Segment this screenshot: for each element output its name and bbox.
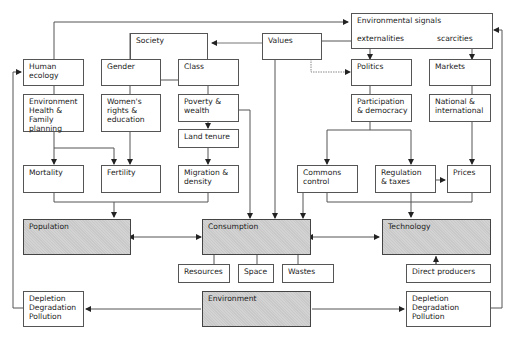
poverty-wealth-box: Poverty & wealth: [178, 94, 239, 122]
national-international-box: National & international: [429, 94, 491, 122]
gender-label: Gender: [107, 62, 160, 71]
depletion-right-label: Depletion Degradation Pollution: [412, 294, 490, 321]
environment-health-family-planning-box: Environment Health & Family planning: [23, 94, 84, 132]
society-label: Society: [136, 36, 207, 45]
land-tenure-label: Land tenure: [184, 132, 238, 141]
environment-box: Environment: [202, 291, 311, 327]
technology-label: Technology: [388, 222, 490, 231]
class-box: Class: [178, 59, 239, 86]
consumption-label: Consumption: [208, 222, 310, 231]
society-box: Society: [130, 33, 208, 61]
participation-democracy-box: Participation & democracy: [351, 94, 412, 122]
population-box: Population: [23, 219, 131, 255]
gender-box: Gender: [101, 59, 161, 86]
migration-label: Migration & density: [184, 168, 238, 186]
space-label: Space: [244, 267, 273, 276]
fertility-label: Fertility: [107, 168, 160, 177]
values-label: Values: [268, 36, 321, 45]
env-health-label: Environment Health & Family planning: [29, 97, 83, 133]
human-ecology-box: Human ecology: [23, 59, 84, 86]
direct-producers-label: Direct producers: [412, 267, 490, 276]
depletion-left-label: Depletion Degradation Pollution: [29, 294, 83, 321]
environmental-signals-label: Environmental signals: [357, 16, 492, 25]
direct-producers-box: Direct producers: [406, 264, 491, 283]
consumption-box: Consumption: [202, 219, 311, 255]
prices-box: Prices: [447, 165, 491, 193]
population-label: Population: [29, 222, 130, 231]
participation-label: Participation & democracy: [357, 97, 411, 115]
regulation-taxes-box: Regulation & taxes: [375, 165, 436, 193]
values-box: Values: [262, 33, 322, 60]
mortality-box: Mortality: [23, 165, 84, 193]
fertility-box: Fertility: [101, 165, 161, 193]
class-label: Class: [184, 62, 238, 71]
resources-label: Resources: [184, 267, 229, 276]
poverty-wealth-label: Poverty & wealth: [184, 97, 238, 115]
depletion-right-box: Depletion Degradation Pollution: [406, 291, 491, 327]
markets-label: Markets: [435, 62, 490, 71]
womens-rights-box: Women's rights & education: [101, 94, 161, 132]
wastes-box: Wastes: [282, 264, 334, 283]
markets-box: Markets: [429, 59, 491, 86]
national-label: National & international: [435, 97, 490, 115]
commons-label: Commons control: [303, 168, 357, 186]
depletion-left-box: Depletion Degradation Pollution: [23, 291, 84, 327]
regulation-label: Regulation & taxes: [381, 168, 435, 186]
womens-rights-label: Women's rights & education: [107, 97, 160, 124]
externalities-label: externalities: [357, 34, 404, 43]
wastes-label: Wastes: [288, 267, 333, 276]
politics-label: Politics: [357, 62, 411, 71]
technology-box: Technology: [382, 219, 491, 255]
prices-label: Prices: [453, 168, 490, 177]
resources-box: Resources: [178, 264, 230, 283]
scarcities-label: scarcities: [437, 34, 473, 43]
environmental-signals-box: Environmental signals: [351, 13, 493, 49]
commons-control-box: Commons control: [297, 165, 358, 193]
migration-density-box: Migration & density: [178, 165, 239, 193]
human-ecology-label: Human ecology: [29, 62, 83, 80]
land-tenure-box: Land tenure: [178, 129, 239, 148]
mortality-label: Mortality: [29, 168, 83, 177]
politics-box: Politics: [351, 59, 412, 86]
environment-label: Environment: [208, 294, 310, 303]
space-box: Space: [238, 264, 274, 283]
